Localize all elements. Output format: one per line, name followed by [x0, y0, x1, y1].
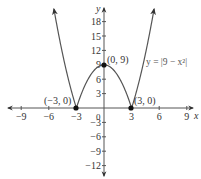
point-neg3-0 — [73, 105, 78, 110]
x-tick-label: 9 — [184, 111, 189, 122]
x-tick-label: −3 — [71, 111, 82, 122]
function-graph: −9−6−3369 181512963−3−6−9−12 (0, 9) (−3,… — [0, 0, 201, 179]
y-tick-label: 3 — [96, 88, 101, 99]
y-ticks: 181512963−3−6−9−12 — [85, 16, 106, 171]
label-point-0-9: (0, 9) — [107, 54, 129, 66]
y-tick-label: 15 — [91, 31, 101, 42]
y-tick-label: 12 — [91, 45, 101, 56]
y-tick-label: −12 — [85, 160, 101, 171]
y-tick-label: 18 — [91, 16, 101, 27]
equation-label: y = |9 − x²| — [146, 57, 187, 67]
x-tick-label: −6 — [43, 111, 54, 122]
y-tick-label: 9 — [96, 59, 101, 70]
x-tick-label: 3 — [129, 111, 134, 122]
x-tick-label: −9 — [16, 111, 27, 122]
x-axis-label: x — [193, 110, 199, 121]
y-tick-label: 6 — [96, 74, 101, 85]
point-0-9 — [101, 62, 106, 67]
x-tick-label: 6 — [157, 111, 162, 122]
label-point-neg3-0: (−3, 0) — [44, 95, 71, 107]
point-3-0 — [128, 105, 133, 110]
origin-label: 0 — [96, 112, 101, 122]
y-tick-label: −6 — [90, 131, 101, 142]
y-axis-label: y — [95, 3, 101, 14]
y-tick-label: −9 — [90, 146, 101, 157]
label-point-3-0: (3, 0) — [134, 95, 156, 107]
